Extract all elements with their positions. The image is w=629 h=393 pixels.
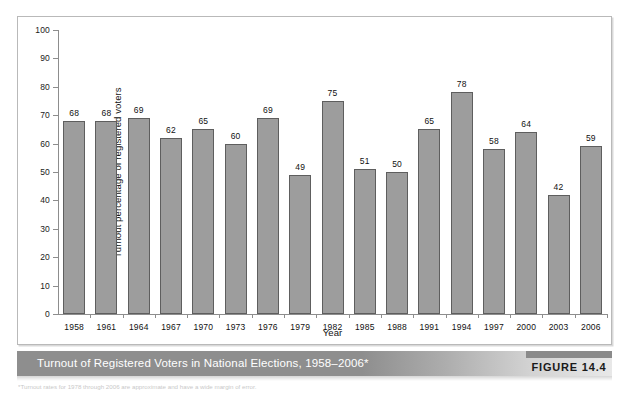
bar-value-label: 69: [253, 105, 283, 115]
figure-root: Turnout percentage of registered voters …: [0, 0, 629, 393]
bar: [128, 118, 150, 314]
y-axis-tick: [53, 314, 58, 315]
bar: [418, 129, 440, 314]
x-axis-tick: [219, 314, 220, 318]
bar: [225, 144, 247, 314]
y-axis-tick-label: 60: [40, 139, 50, 149]
bar-value-label: 68: [59, 108, 89, 118]
x-axis-tick: [381, 314, 382, 318]
bar: [322, 101, 344, 314]
x-axis-tick: [575, 314, 576, 318]
x-axis-tick: [187, 314, 188, 318]
y-axis-tick-label: 50: [40, 167, 50, 177]
bar-value-label: 65: [414, 116, 444, 126]
bar: [483, 149, 505, 314]
bar-value-label: 51: [350, 156, 380, 166]
plot-area: 0102030405060708090100 68686962656069497…: [58, 30, 607, 314]
bar: [451, 92, 473, 314]
bar-value-label: 59: [576, 133, 606, 143]
y-axis-line: [58, 30, 59, 314]
x-axis-tick: [155, 314, 156, 318]
bar-value-label: 68: [91, 108, 121, 118]
bar-value-label: 49: [285, 162, 315, 172]
y-axis-tick: [53, 229, 58, 230]
y-axis-tick-label: 90: [40, 53, 50, 63]
bar: [289, 175, 311, 314]
bar: [548, 195, 570, 314]
y-axis-tick: [53, 200, 58, 201]
y-axis-tick-label: 30: [40, 224, 50, 234]
y-axis-tick: [53, 30, 58, 31]
x-axis-tick: [123, 314, 124, 318]
x-axis-tick: [316, 314, 317, 318]
bar-value-label: 62: [156, 125, 186, 135]
x-axis-tick: [284, 314, 285, 318]
bar-value-label: 58: [479, 136, 509, 146]
y-axis-tick-label: 20: [40, 252, 50, 262]
bar: [63, 121, 85, 314]
y-axis-tick-label: 0: [45, 309, 50, 319]
bar: [192, 129, 214, 314]
bar-value-label: 50: [382, 159, 412, 169]
bar-value-label: 69: [124, 105, 154, 115]
bar: [354, 169, 376, 314]
y-axis-tick-label: 80: [40, 82, 50, 92]
y-axis-tick-label: 70: [40, 110, 50, 120]
bar-value-label: 75: [318, 88, 348, 98]
x-axis-tick: [478, 314, 479, 318]
bar-value-label: 78: [447, 79, 477, 89]
x-axis-tick: [252, 314, 253, 318]
figure-label: FIGURE 14.4: [526, 361, 612, 373]
x-axis-tick: [413, 314, 414, 318]
bar: [160, 138, 182, 314]
bar: [580, 146, 602, 314]
bar-value-label: 64: [511, 119, 541, 129]
chart-frame: Turnout percentage of registered voters …: [17, 16, 612, 345]
bar-value-label: 42: [544, 182, 574, 192]
x-axis-title: Year: [58, 327, 607, 338]
x-axis-tick: [349, 314, 350, 318]
bar: [95, 121, 117, 314]
y-axis-tick: [53, 58, 58, 59]
y-axis-tick: [53, 144, 58, 145]
y-axis-tick-label: 100: [35, 25, 50, 35]
y-axis-tick-label: 40: [40, 195, 50, 205]
x-axis-tick: [446, 314, 447, 318]
figure-label-tab: [526, 351, 612, 358]
y-axis-tick: [53, 286, 58, 287]
y-axis-tick-label: 10: [40, 281, 50, 291]
y-axis-tick: [53, 115, 58, 116]
y-axis-tick: [53, 172, 58, 173]
bar-value-label: 60: [221, 131, 251, 141]
x-axis-tick: [510, 314, 511, 318]
caption-shadow: [17, 376, 612, 381]
x-axis-tick: [90, 314, 91, 318]
y-axis-tick: [53, 257, 58, 258]
bar: [386, 172, 408, 314]
figure-caption: Turnout of Registered Voters in National…: [37, 357, 369, 369]
x-axis-tick: [542, 314, 543, 318]
x-axis-line: [58, 314, 607, 315]
figure-footnote: *Turnout rates for 1978 through 2006 are…: [18, 383, 438, 390]
x-axis-tick: [607, 314, 608, 318]
bar-value-label: 65: [188, 116, 218, 126]
bar: [515, 132, 537, 314]
y-axis-tick: [53, 87, 58, 88]
bar: [257, 118, 279, 314]
